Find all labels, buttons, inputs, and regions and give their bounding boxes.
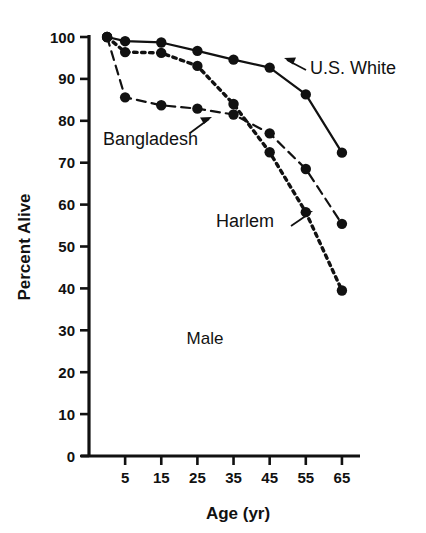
data-point [120, 47, 130, 57]
series-line [107, 37, 342, 291]
series-label-bangladesh: Bangladesh [103, 129, 198, 149]
us-white-arrow-icon [284, 58, 306, 71]
data-point [228, 54, 238, 64]
data-point [156, 37, 166, 47]
series-label-us-white: U.S. White [310, 58, 396, 78]
x-axis-tick-label: 45 [261, 469, 278, 486]
y-axis-tick-label: 100 [50, 29, 75, 46]
data-point [120, 92, 130, 102]
axes-group: 01020304050607080901005152535455565 [50, 29, 360, 487]
data-point [102, 32, 112, 42]
x-axis-tick-label: 5 [121, 469, 129, 486]
data-point [301, 89, 311, 99]
y-axis-tick-label: 30 [58, 322, 75, 339]
y-axis-tick-label: 60 [58, 196, 75, 213]
x-axis-tick-label: 25 [189, 469, 206, 486]
data-point [156, 100, 166, 110]
mortality-line-chart: Percent Alive Age (yr) 01020304050607080… [0, 0, 426, 533]
data-point [120, 36, 130, 46]
series-label-harlem: Harlem [216, 211, 274, 231]
data-point [192, 103, 202, 113]
y-axis-tick-label: 40 [58, 280, 75, 297]
y-axis-title: Percent Alive [15, 193, 34, 300]
x-axis-title: Age (yr) [206, 504, 270, 523]
y-axis-tick-label: 20 [58, 364, 75, 381]
data-point [192, 46, 202, 56]
x-axis-tick-label: 15 [153, 469, 170, 486]
data-point [192, 61, 202, 71]
y-axis-tick-label: 90 [58, 70, 75, 87]
y-axis-tick-label: 80 [58, 112, 75, 129]
y-axis-tick-label: 0 [67, 448, 75, 465]
y-axis-tick-label: 70 [58, 154, 75, 171]
bangladesh-arrow-icon [190, 117, 212, 133]
data-point [156, 48, 166, 58]
data-point [337, 285, 347, 295]
data-point [337, 219, 347, 229]
data-point [264, 62, 274, 72]
x-axis-tick-label: 65 [334, 469, 351, 486]
chart-container: Percent Alive Age (yr) 01020304050607080… [0, 0, 426, 533]
x-axis-tick-label: 55 [297, 469, 314, 486]
data-point [228, 99, 238, 109]
male-annotation: Male [187, 329, 224, 348]
y-axis-tick-label: 10 [58, 406, 75, 423]
y-axis-tick-label: 50 [58, 238, 75, 255]
x-axis-tick-label: 35 [225, 469, 242, 486]
data-point [301, 164, 311, 174]
data-point [264, 128, 274, 138]
data-point [337, 147, 347, 157]
data-point [264, 147, 274, 157]
data-point [228, 109, 238, 119]
